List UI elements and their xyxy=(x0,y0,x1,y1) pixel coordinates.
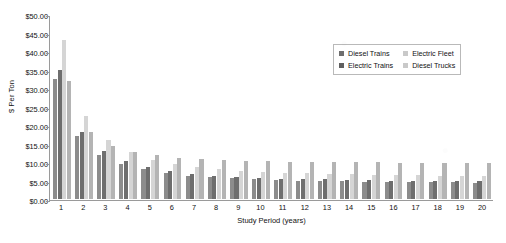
bar xyxy=(129,152,133,199)
bar xyxy=(252,179,256,199)
y-axis-tick-label: $20.00 xyxy=(25,123,48,132)
bar xyxy=(119,164,123,199)
bar xyxy=(244,161,248,199)
bar xyxy=(487,163,491,199)
bar xyxy=(102,151,106,199)
bar xyxy=(199,159,203,199)
bar xyxy=(305,173,309,199)
y-axis-tick-label: $10.00 xyxy=(25,160,48,169)
bar xyxy=(80,132,84,199)
legend-label: Electric Trains xyxy=(348,61,393,70)
bar xyxy=(350,174,354,199)
bar-group xyxy=(206,16,228,199)
bar xyxy=(301,179,305,199)
bar xyxy=(106,140,110,199)
bar xyxy=(212,176,216,199)
bar xyxy=(407,182,411,199)
bar xyxy=(296,181,300,200)
x-axis-tick-label: 8 xyxy=(205,203,227,212)
x-axis-tick-label: 20 xyxy=(471,203,493,212)
y-axis-tick-label: $30.00 xyxy=(25,86,48,95)
bar-group xyxy=(161,16,183,199)
legend-item: Diesel Trucks xyxy=(403,61,455,70)
legend-swatch-icon xyxy=(403,51,408,56)
y-axis-tick-mark xyxy=(46,35,50,36)
y-axis-tick-label: $25.00 xyxy=(25,104,48,113)
bar xyxy=(438,176,442,199)
bar xyxy=(465,163,469,199)
bar xyxy=(460,176,464,199)
x-axis-tick-label: 1 xyxy=(50,203,72,212)
bar xyxy=(340,181,344,199)
legend-item: Diesel Trains xyxy=(339,49,393,58)
y-axis-tick-mark xyxy=(46,109,50,110)
x-axis-tick-label: 7 xyxy=(183,203,205,212)
bar xyxy=(433,181,437,199)
bar xyxy=(257,178,261,199)
bar xyxy=(208,177,212,199)
bar xyxy=(261,172,265,199)
bar xyxy=(173,164,177,199)
x-axis-tick-label: 3 xyxy=(94,203,116,212)
y-axis-tick-mark xyxy=(46,127,50,128)
bar xyxy=(310,162,314,199)
x-axis-title: Study Period (years) xyxy=(50,216,493,225)
y-axis-tick-labels: $50.00$45.00$40.00$35.00$30.00$25.00$20.… xyxy=(4,0,48,243)
legend-label: Electric Fleet xyxy=(412,49,454,58)
bar-group xyxy=(294,16,316,199)
bar xyxy=(58,70,62,200)
legend-label: Diesel Trains xyxy=(348,49,390,58)
bar-group xyxy=(139,16,161,199)
y-axis-tick-mark xyxy=(46,90,50,91)
x-axis-tick-label: 19 xyxy=(449,203,471,212)
bar-group xyxy=(228,16,250,199)
x-axis-tick-label: 16 xyxy=(382,203,404,212)
bar xyxy=(411,181,415,200)
bar xyxy=(168,171,172,199)
y-axis-tick-mark xyxy=(46,146,50,147)
bar xyxy=(362,182,366,199)
y-axis-tick-label: $40.00 xyxy=(25,49,48,58)
bar xyxy=(164,173,168,199)
x-axis-tick-label: 9 xyxy=(227,203,249,212)
bar xyxy=(234,177,238,199)
x-axis-tick-label: 12 xyxy=(294,203,316,212)
x-axis-tick-label: 2 xyxy=(72,203,94,212)
bar xyxy=(111,146,115,199)
bar xyxy=(327,174,331,199)
bar xyxy=(230,178,234,199)
bar-group xyxy=(51,16,73,199)
bar xyxy=(274,180,278,199)
legend-label: Diesel Trucks xyxy=(412,61,455,70)
bar xyxy=(420,163,424,199)
bar xyxy=(97,155,101,199)
bar xyxy=(354,162,358,199)
x-axis-tick-label: 6 xyxy=(161,203,183,212)
bar xyxy=(394,175,398,199)
x-axis-tick-label: 10 xyxy=(249,203,271,212)
bar xyxy=(283,173,287,199)
bar xyxy=(186,176,190,199)
y-axis-tick-label: $45.00 xyxy=(25,30,48,39)
chart-legend: Diesel TrainsElectric FleetElectric Trai… xyxy=(333,44,461,75)
bar xyxy=(442,163,446,199)
x-axis-tick-label: 13 xyxy=(316,203,338,212)
legend-swatch-icon xyxy=(339,51,344,56)
x-axis-tick-label: 18 xyxy=(427,203,449,212)
bar xyxy=(151,160,155,199)
bar xyxy=(133,152,137,199)
legend-item: Electric Trains xyxy=(339,61,393,70)
bar xyxy=(345,180,349,199)
x-axis-tick-labels: 1234567891011121314151617181920 xyxy=(50,203,493,212)
bar xyxy=(222,160,226,199)
bar xyxy=(473,183,477,199)
bar xyxy=(416,175,420,199)
bar-group xyxy=(73,16,95,199)
legend-swatch-icon xyxy=(403,63,408,68)
bar xyxy=(477,181,481,199)
bar xyxy=(482,176,486,199)
y-axis-tick-mark xyxy=(46,164,50,165)
bar xyxy=(67,81,71,199)
legend-item: Electric Fleet xyxy=(403,49,455,58)
legend-swatch-icon xyxy=(339,63,344,68)
